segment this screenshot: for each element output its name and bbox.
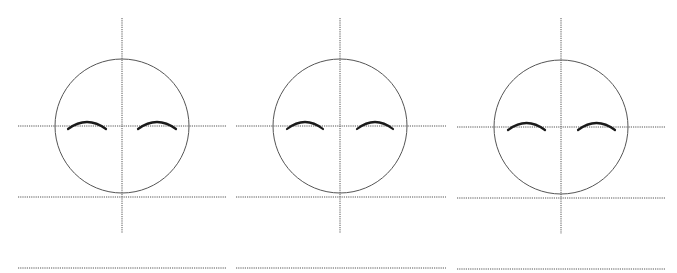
face-sketch-panel [457, 18, 666, 269]
face-sketch-panel [236, 18, 446, 268]
left-eyebrow [508, 123, 545, 130]
face-construction-diagram [0, 0, 677, 273]
face-sketch-panel [18, 18, 226, 268]
